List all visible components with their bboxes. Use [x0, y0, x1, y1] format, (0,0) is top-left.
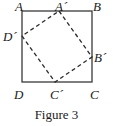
label-vertex-b: B: [93, 0, 101, 13]
label-vertex-a: A: [15, 0, 23, 13]
label-vertex-c: C: [90, 88, 99, 101]
label-vertex-a-prime: A´: [55, 0, 67, 13]
figure-caption: Figure 3: [0, 108, 113, 122]
outer-square-abcd: [22, 11, 92, 82]
figure-3-container: A A´ B D´ B´ D C´ C Figure 3: [0, 0, 113, 126]
inner-square-a-b-c-d-prime: [22, 11, 92, 82]
label-vertex-b-prime: B´: [94, 51, 106, 64]
label-vertex-c-prime: C´: [50, 88, 63, 101]
label-vertex-d: D: [14, 88, 23, 101]
label-vertex-d-prime: D´: [3, 30, 17, 43]
